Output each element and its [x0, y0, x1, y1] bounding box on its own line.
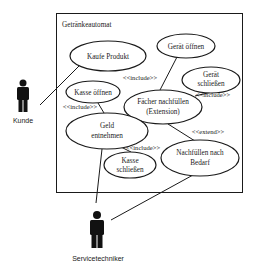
use-case-label-line-2: entnehmen — [91, 132, 123, 140]
use-case-label-line-1: Kasse — [121, 157, 138, 165]
include-label-left: <<include>> — [63, 103, 98, 110]
use-case-label-line-2: schließen — [197, 80, 225, 88]
use-case-label: Kasse öffnen — [74, 89, 112, 97]
person-icon — [17, 80, 29, 113]
include-label-right: <<include>> — [196, 91, 231, 98]
use-case-kasse-oeffnen[interactable]: Kasse öffnen — [66, 81, 120, 103]
use-case-kasse-schliessen[interactable]: Kasse schließen — [104, 152, 156, 178]
use-case-geraet-schliessen[interactable]: Gerät schließen — [182, 67, 240, 93]
extend-label: <<extend>> — [192, 128, 225, 135]
use-case-label-line-2: Bedarf — [190, 159, 210, 167]
use-case-nachfuellen-nach-bedarf[interactable]: Nachfüllen nach Bedarf — [161, 140, 239, 176]
person-icon — [90, 211, 104, 248]
actor-label: Servicetechniker — [72, 255, 124, 262]
use-case-label-line-2: (Extension) — [146, 108, 180, 116]
use-case-label-line-2: schließen — [116, 166, 144, 174]
include-line-geraet-oeffnen — [160, 57, 177, 90]
use-case-label: Gerät öffnen — [168, 43, 205, 51]
use-case-label-line-1: Gerät — [203, 71, 219, 79]
association-servicetechniker-geld-entnehmen — [96, 149, 102, 203]
use-case-kaufe-produkt[interactable]: Kaufe Produkt — [70, 41, 146, 71]
actor-kunde[interactable]: Kunde — [13, 80, 33, 125]
actor-label: Kunde — [13, 117, 33, 124]
use-case-label: Kaufe Produkt — [87, 53, 129, 61]
include-line-kasse-oeffnen — [98, 103, 104, 113]
use-case-diagram: Getränkeautomat Kaufe Produkt Gerät öffn… — [0, 0, 256, 271]
actor-servicetechniker[interactable]: Servicetechniker — [72, 211, 124, 262]
use-case-geraet-oeffnen[interactable]: Gerät öffnen — [157, 34, 215, 58]
use-case-label-line-1: Fächer nachfüllen — [137, 98, 189, 106]
use-case-label-line-1: Geld — [100, 122, 114, 130]
include-label-lower: <<include>> — [126, 144, 161, 151]
use-case-label-line-1: Nachfüllen nach — [176, 149, 224, 157]
association-servicetechniker-nachfuellen — [111, 175, 193, 220]
include-label-upper: <<include>> — [123, 74, 158, 81]
system-name: Getränkeautomat — [62, 21, 112, 29]
